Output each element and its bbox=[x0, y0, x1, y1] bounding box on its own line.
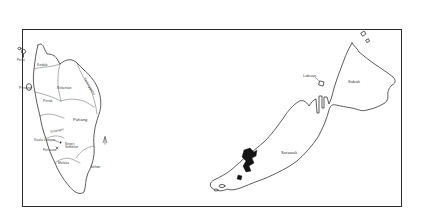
label-kelantan: Kelantan bbox=[57, 86, 72, 90]
map-figure: Perlis Kedah Penang Kelantan Terengganu … bbox=[0, 0, 428, 222]
label-labuan: Labuan bbox=[303, 74, 316, 78]
borneo-outline bbox=[210, 43, 395, 191]
perlis-marker bbox=[21, 49, 25, 57]
label-perak: Perak bbox=[43, 99, 53, 103]
north-sabah-islet-2 bbox=[366, 39, 370, 43]
label-kedah: Kedah bbox=[37, 63, 48, 67]
label-perlis: Perlis bbox=[17, 58, 25, 61]
label-melaka: Melaka bbox=[58, 161, 69, 165]
label-sabah: Sabah bbox=[348, 80, 360, 84]
label-putrajaya: Putrajaya bbox=[43, 148, 57, 151]
label-penang: Penang bbox=[19, 86, 32, 90]
north-arrow-icon bbox=[103, 137, 107, 145]
sw-islet-1 bbox=[219, 185, 225, 188]
langkawi-island bbox=[18, 47, 21, 49]
sw-islet-2 bbox=[214, 189, 218, 191]
label-pahang: Pahang bbox=[73, 118, 87, 122]
label-kuala-lumpur: Kuala Lumpur bbox=[34, 138, 55, 142]
label-johor: Johor bbox=[90, 165, 101, 169]
label-sarawak: Sarawak bbox=[281, 151, 297, 155]
north-sabah-islet-1 bbox=[361, 31, 366, 36]
malaysia-map-svg bbox=[0, 0, 428, 222]
label-negeri-sembilan: Negeri Sembilan bbox=[65, 142, 80, 149]
kuching-highlight-islet bbox=[237, 175, 242, 180]
